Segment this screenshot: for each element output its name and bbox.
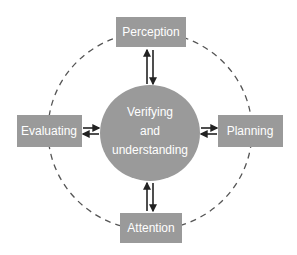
- cycle-diagram: Verifying and understanding Perception P…: [0, 0, 297, 255]
- node-evaluating: Evaluating: [17, 115, 82, 147]
- center-label-line-3: understanding: [112, 143, 188, 157]
- node-attention: Attention: [120, 213, 182, 243]
- arrow-pair-evaluating: [83, 128, 99, 134]
- arrow-pair-attention: [147, 183, 153, 211]
- arrow-pair-planning: [201, 128, 217, 134]
- node-evaluating-label: Evaluating: [21, 124, 77, 138]
- node-perception-label: Perception: [122, 25, 179, 39]
- node-planning-label: Planning: [227, 124, 274, 138]
- center-label-line-2: and: [140, 124, 160, 138]
- center-label-line-1: Verifying: [127, 105, 173, 119]
- node-attention-label: Attention: [127, 221, 174, 235]
- node-perception: Perception: [116, 17, 186, 47]
- node-planning: Planning: [218, 115, 283, 147]
- arrow-pair-perception: [147, 50, 153, 84]
